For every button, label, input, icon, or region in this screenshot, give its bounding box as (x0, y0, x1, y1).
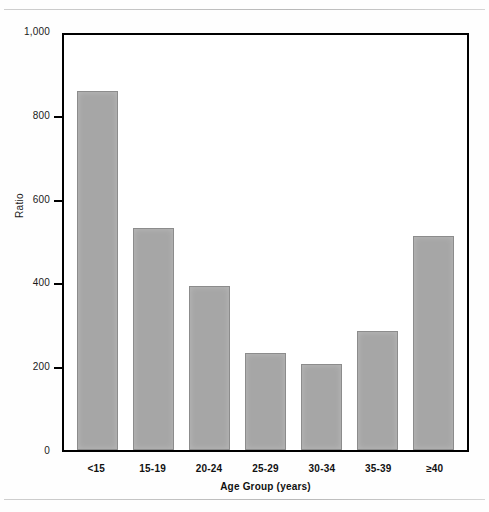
x-axis-tick-label: 30-34 (309, 463, 336, 474)
y-axis-tick-label: 400 (33, 277, 50, 289)
x-axis-tick-label: 15-19 (139, 463, 166, 474)
bar-25-29[interactable] (245, 353, 286, 450)
y-axis-tick-mark (54, 367, 62, 369)
bar-20-24[interactable] (189, 286, 230, 450)
plot-area (64, 35, 467, 450)
bar-35-39[interactable] (357, 331, 398, 450)
x-axis-tick-label: 20-24 (196, 463, 223, 474)
x-label-slot: ≥40 (407, 458, 463, 476)
x-axis-tick-label: 25-29 (252, 463, 279, 474)
y-axis-tick-label: 1,000 (24, 26, 50, 38)
y-axis-tick-mark (54, 283, 62, 285)
y-axis-tick-mark (54, 200, 62, 202)
y-axis-tick-label: 0 (44, 445, 50, 457)
bar-series (64, 35, 467, 450)
x-label-slot: 25-29 (237, 458, 293, 476)
x-axis-tick-label: ≥40 (426, 463, 443, 474)
x-label-slot: <15 (68, 458, 124, 476)
x-label-slot: 30-34 (294, 458, 350, 476)
bar-<15[interactable] (77, 91, 118, 450)
x-label-slot: 35-39 (350, 458, 406, 476)
y-axis-tick-label: 800 (33, 110, 50, 122)
y-axis-title: Ratio (14, 193, 25, 218)
bar-slot (182, 35, 238, 450)
bar-slot (126, 35, 182, 450)
y-axis-tick-label: 200 (33, 361, 50, 373)
bar-slot (70, 35, 126, 450)
y-axis-tick-mark (54, 116, 62, 118)
bar-slot (238, 35, 294, 450)
x-axis-tick-label: <15 (87, 463, 105, 474)
x-axis-tick-label: 35-39 (365, 463, 392, 474)
bar-slot (293, 35, 349, 450)
x-axis-title: Age Group (years) (62, 481, 469, 492)
bar-≥40[interactable] (413, 236, 454, 450)
bar-chart-figure: 02004006008001,000 Ratio <1515-1920-2425… (0, 0, 489, 512)
y-axis-tick-label: 600 (33, 194, 50, 206)
bar-15-19[interactable] (133, 228, 174, 450)
x-label-slot: 20-24 (181, 458, 237, 476)
bar-slot (405, 35, 461, 450)
bar-30-34[interactable] (301, 364, 342, 450)
x-axis-tick-labels: <1515-1920-2425-2930-3435-39≥40 (62, 458, 469, 476)
bar-slot (349, 35, 405, 450)
scanned-page: 02004006008001,000 Ratio <1515-1920-2425… (0, 0, 489, 512)
y-axis: 02004006008001,000 (0, 0, 62, 512)
plot-frame (62, 33, 469, 452)
x-label-slot: 15-19 (124, 458, 180, 476)
